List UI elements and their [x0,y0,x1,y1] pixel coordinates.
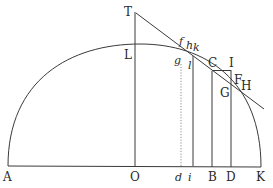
geometry-diagram: T L f h k g l C I F H G A O d i B D K [0,0,273,188]
label-K: K [256,170,266,184]
label-D: D [226,170,236,184]
label-I: I [229,56,234,70]
label-B: B [208,170,217,184]
label-O: O [130,170,140,184]
label-A: A [2,170,12,184]
label-T: T [124,5,132,19]
label-l: l [188,59,192,72]
label-f: f [178,35,185,48]
label-C: C [208,56,217,70]
label-g: g [174,54,181,67]
tangent-line-TH [136,13,264,109]
baseline-AK [8,166,261,167]
label-k: k [193,41,200,54]
label-i: i [188,171,192,184]
label-d: d [175,171,182,184]
label-H: H [241,79,251,93]
label-G: G [220,86,230,100]
label-L: L [124,48,132,62]
